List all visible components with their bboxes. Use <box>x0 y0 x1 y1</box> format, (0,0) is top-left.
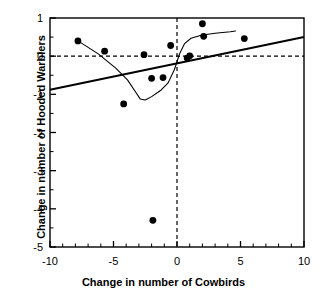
reference-lines <box>50 18 304 247</box>
x-tick-label: 10 <box>298 255 310 267</box>
data-point-markers <box>75 20 248 223</box>
data-point <box>199 20 206 27</box>
data-point <box>141 51 148 58</box>
data-point <box>167 42 174 49</box>
data-point <box>149 217 156 224</box>
data-point <box>148 75 155 82</box>
y-axis-title: Change in number of Hooded Warblers <box>35 17 47 257</box>
data-point <box>120 100 127 107</box>
data-point <box>186 52 193 59</box>
plot-canvas: -10-50510 10-1-2-3-4-5 <box>0 0 327 303</box>
smoothed-fit-curve <box>78 31 235 100</box>
scatter-plot-figure: -10-50510 10-1-2-3-4-5 Change in number … <box>0 0 327 303</box>
x-tick-label: 0 <box>174 255 180 267</box>
x-axis-title: Change in number of Cowbirds <box>0 276 327 288</box>
data-point <box>241 35 248 42</box>
x-tick-label: 5 <box>237 255 243 267</box>
data-point <box>160 74 167 81</box>
data-point <box>75 38 82 45</box>
y-axis-ticks <box>50 18 56 247</box>
x-tick-label: -5 <box>109 255 119 267</box>
data-point <box>200 33 207 40</box>
x-axis-tick-labels: -10-50510 <box>42 255 310 267</box>
data-point <box>101 48 108 55</box>
